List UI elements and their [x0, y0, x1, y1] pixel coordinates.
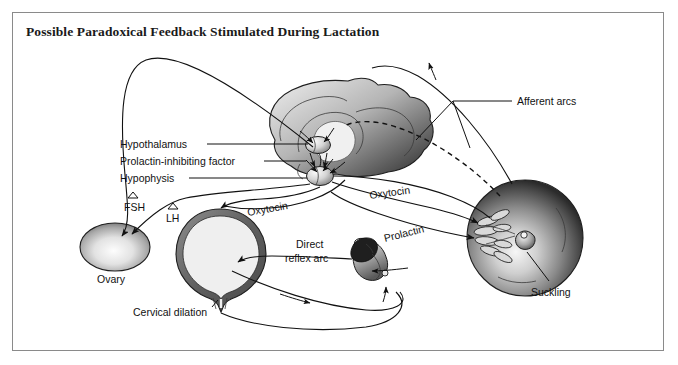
label-prolactin-inhibiting-factor: Prolactin-inhibiting factor: [120, 155, 235, 167]
label-cervical-dilation: Cervical dilation: [133, 306, 207, 318]
brain-sagittal: [270, 78, 434, 179]
infant-head: [351, 238, 388, 281]
label-lh: LH: [166, 212, 179, 224]
diagram-svg: Hypothalamus Prolactin-inhibiting factor…: [0, 0, 678, 365]
label-suckling: Suckling: [531, 286, 571, 298]
breast: [467, 180, 583, 296]
label-hypophysis: Hypophysis: [120, 172, 174, 184]
ovary: [80, 223, 150, 271]
label-fsh: FSH: [124, 201, 145, 213]
oxytocin-to-breast-pathway: [332, 176, 490, 223]
label-prolactin: Prolactin: [383, 222, 426, 244]
label-ovary: Ovary: [97, 273, 126, 285]
figure-canvas: Possible Paradoxical Feedback Stimulated…: [0, 0, 678, 365]
label-direct-reflex-arc-line2: reflex arc: [285, 252, 328, 264]
fsh-increase-icon: [128, 192, 138, 198]
label-afferent-arcs: Afferent arcs: [517, 95, 576, 107]
label-oxytocin-uterus: Oxytocin: [246, 199, 288, 218]
label-direct-reflex-arc-line1: Direct: [296, 238, 324, 250]
uterus: [176, 209, 266, 312]
label-hypothalamus: Hypothalamus: [120, 138, 187, 150]
